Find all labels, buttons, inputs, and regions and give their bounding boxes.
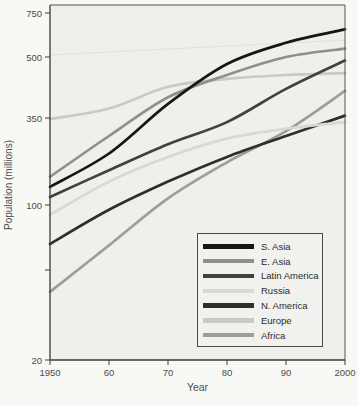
legend-item-n-america: N. America [198, 298, 322, 313]
legend-item-russia: Russia [198, 283, 322, 298]
legend-item-africa: Africa [198, 328, 322, 343]
legend-label-europe: Europe [261, 315, 292, 326]
x-tick-label-1960: 60 [104, 367, 115, 378]
y-tick-label-500: 500 [26, 52, 42, 63]
legend-item-latin-america: Latin America [198, 269, 322, 284]
legend-swatch-n-america [203, 303, 254, 308]
y-tick-label-750: 750 [26, 8, 42, 19]
x-tick-label-2000: 2000 [334, 367, 355, 378]
legend-swatch-europe [203, 318, 254, 323]
legend-box: S. AsiaE. AsiaLatin AmericaRussiaN. Amer… [197, 233, 323, 347]
x-tick-label-1970: 70 [163, 367, 174, 378]
x-axis-title: Year [50, 381, 345, 393]
legend-item-e-asia: E. Asia [198, 254, 322, 269]
legend-item-s-asia: S. Asia [198, 239, 322, 254]
y-tick-label-100: 100 [26, 200, 42, 211]
legend-swatch-e-asia [203, 259, 254, 264]
legend-label-e-asia: E. Asia [261, 256, 291, 267]
legend-swatch-africa [203, 333, 254, 338]
legend-label-s-asia: S. Asia [261, 241, 291, 252]
y-axis-title: Population (millions) [3, 5, 17, 365]
legend-item-europe: Europe [198, 313, 322, 328]
x-tick-label-1950: 1950 [39, 367, 60, 378]
legend-swatch-latin-america [203, 274, 254, 279]
population-growth-chart: 750500350100201950607080902000 Populatio… [0, 0, 358, 406]
legend-label-africa: Africa [261, 330, 285, 341]
legend-label-russia: Russia [261, 285, 290, 296]
y-tick-label-20: 20 [31, 355, 42, 366]
legend-label-latin-america: Latin America [261, 270, 319, 281]
y-tick-label-350: 350 [26, 113, 42, 124]
x-tick-label-1990: 90 [281, 367, 292, 378]
legend-swatch-russia [203, 289, 254, 294]
x-tick-label-1980: 80 [222, 367, 233, 378]
legend-swatch-s-asia [203, 244, 254, 249]
legend-label-n-america: N. America [261, 300, 307, 311]
